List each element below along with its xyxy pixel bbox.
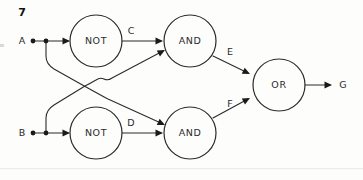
signal-c-label: C [128,25,135,36]
arrowhead-icon [63,130,71,137]
arrowhead-icon [242,95,252,105]
gate-or-label: OR [271,79,286,90]
gate-and-top[interactable]: AND [164,15,216,67]
gate-not-top[interactable]: NOT [70,15,122,67]
gate-layer: NOTANDNOTANDOR [70,15,305,159]
output-g-label: G [339,79,346,90]
wire-and-top-to-or [213,56,248,73]
scan-artifact-left [0,44,4,47]
gate-not-bottom[interactable]: NOT [70,107,122,159]
arrow-into-or-f [242,95,252,105]
gate-and-bottom[interactable]: AND [164,107,216,159]
input-b-label: B [19,127,26,138]
signal-f-label: F [227,98,232,109]
scan-artifact-bottom [0,168,363,169]
gate-not-bottom-label: NOT [85,127,107,138]
arrowhead-icon [156,38,164,45]
arrow-into-not-top [63,38,71,45]
arrow-into-not-bottom [63,130,71,137]
arrowhead-icon [242,68,252,77]
arrowhead-icon [63,38,71,45]
gate-not-top-label: NOT [85,35,107,46]
gate-and-bottom-label: AND [179,127,202,138]
arrow-to-g [325,82,333,89]
junction-b-2 [44,131,49,136]
figure-number: 7 [18,6,26,19]
signal-d-label: D [127,117,134,128]
junction-a-2 [44,39,49,44]
arrow-into-and-top-c [156,38,164,45]
junction-b-1 [31,131,36,136]
arrowhead-icon [325,82,333,89]
input-a-label: A [19,35,26,46]
circuit-diagram-canvas: 7 NOTANDNOTANDOR ABGCEDF [0,0,363,180]
arrow-into-or-e [242,68,252,77]
logic-circuit-diagram: 7 NOTANDNOTANDOR ABGCEDF [0,0,363,180]
signal-e-label: E [227,46,233,57]
arrowhead-icon [156,130,164,137]
gate-and-top-label: AND [179,35,202,46]
gate-or[interactable]: OR [253,59,305,111]
junction-a-1 [31,39,36,44]
arrow-into-and-bottom-d [156,130,164,137]
